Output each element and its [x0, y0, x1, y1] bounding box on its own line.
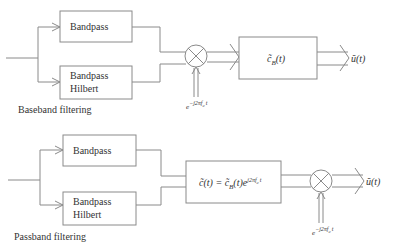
output-label: ũ(t)	[351, 53, 366, 65]
arrowhead-icon	[192, 67, 200, 74]
hilbert-label-2: Hilbert	[70, 83, 99, 94]
hilbert-label-1: Bandpass	[73, 196, 111, 207]
bandpass-label: Bandpass	[70, 21, 108, 32]
hilbert-label-1: Bandpass	[70, 70, 108, 81]
bandpass-to-filter	[136, 150, 186, 176]
hilbert-to-filter	[136, 187, 186, 205]
hilbert-to-mixer	[132, 64, 186, 82]
baseband-diagram: Bandpass Bandpass Hilbert e−j2πfct c̃B(t…	[6, 11, 366, 115]
hilbert-label-2: Hilbert	[73, 209, 102, 220]
double-arrowhead-icon	[230, 44, 239, 70]
double-arrowhead-icon	[340, 45, 349, 71]
mixer-input-label: e−j2πfct	[186, 100, 208, 111]
double-arrowhead-icon	[355, 168, 364, 194]
arrowhead-icon	[317, 192, 325, 199]
baseband-caption: Baseband filtering	[18, 104, 92, 115]
passband-diagram: Bandpass Bandpass Hilbert c̃(t) = c̃B(t)…	[8, 135, 381, 242]
bandpass-label: Bandpass	[73, 145, 111, 156]
output-label: ũ(t)	[366, 176, 381, 188]
passband-caption: Passband filtering	[14, 231, 86, 242]
mixer-input-label: e−j2πfct	[312, 226, 334, 237]
bandpass-to-mixer	[132, 27, 186, 52]
